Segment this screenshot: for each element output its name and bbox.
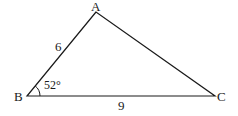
side-bc-label: 9: [118, 98, 125, 113]
vertex-a-label: A: [91, 0, 101, 14]
triangle-diagram: A B C 6 9 52°: [0, 0, 238, 116]
vertex-b-label: B: [14, 89, 23, 104]
vertex-c-label: C: [217, 89, 226, 104]
angle-b-label: 52°: [44, 78, 61, 92]
angle-b-arc: [35, 86, 40, 96]
side-ab-label: 6: [55, 39, 62, 54]
